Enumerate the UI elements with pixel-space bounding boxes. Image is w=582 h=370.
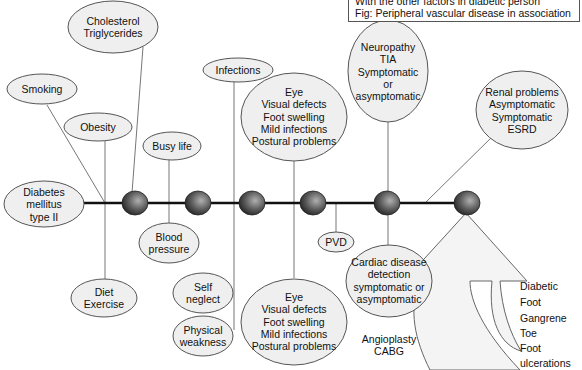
label-diet: DietExercise: [71, 286, 137, 311]
label-blood-pressure: Bloodpressure: [139, 231, 199, 256]
label-pvd: PVD: [318, 236, 354, 248]
timeline-dot: [300, 191, 326, 215]
label-eye-bottom: EyeVisual defectsFoot swellingMild infec…: [241, 291, 347, 352]
label-cholesterol: CholesterolTriglycerides: [68, 15, 158, 40]
timeline-dot: [239, 191, 265, 215]
label-cardiac: Cardiac diseasedetectionsymptomatic oras…: [346, 256, 432, 305]
label-busy-life: Busy life: [143, 140, 201, 152]
label-angioplasty: AngioplastyCABG: [346, 333, 432, 358]
timeline-dot: [454, 191, 480, 215]
foot-label-foot: Foot: [520, 296, 541, 308]
timeline-dot: [122, 191, 148, 215]
label-smoking: Smoking: [7, 83, 77, 95]
label-physical-weakness: Physicalweakness: [173, 324, 233, 349]
foot-label-diabetic: Diabetic: [520, 280, 558, 292]
foot-label-ulcerations: ulcerations: [520, 357, 571, 369]
figure-caption: With the other factors in diabetic perso…: [348, 0, 580, 22]
timeline-dot: [185, 191, 211, 215]
foot-label-toe: Toe: [520, 327, 537, 339]
label-obesity: Obesity: [64, 121, 132, 133]
caption-line-1: With the other factors in diabetic perso…: [355, 0, 540, 7]
label-neuropathy: NeuropathyTIASymptomaticorasymptomatic: [348, 41, 428, 102]
timeline-dot: [374, 191, 400, 215]
label-self-neglect: Selfneglect: [173, 281, 233, 306]
label-infections: Infections: [203, 64, 273, 76]
caption-line-2: Fig: Peripheral vascular disease in asso…: [355, 7, 571, 19]
foot-label-gangrene: Gangrene: [520, 312, 567, 324]
label-eye-top: EyeVisual defectsFoot swellingMild infec…: [241, 86, 347, 147]
label-diabetes: Diabetesmellitustype II: [4, 186, 84, 223]
foot-label-foot-2: Foot: [520, 342, 541, 354]
label-renal: Renal problemsAsymptomaticSymptomaticESR…: [476, 86, 568, 135]
